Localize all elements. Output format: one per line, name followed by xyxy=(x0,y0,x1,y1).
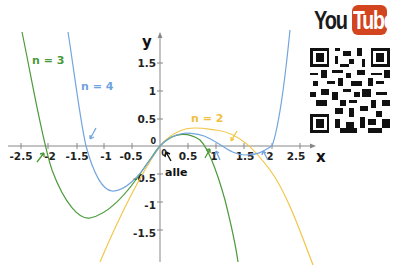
svg-text:0: 0 xyxy=(150,137,156,146)
svg-text:-1.5: -1.5 xyxy=(133,227,156,239)
svg-text:-2.5: -2.5 xyxy=(10,150,33,162)
youtube-you-text: You xyxy=(314,6,347,35)
svg-text:-1: -1 xyxy=(100,150,112,162)
chart-plot: -2.5 -2 -1.5 -1 -0.5 0 0.5 1 1.5 2 2.5 x… xyxy=(0,0,400,274)
svg-text:1: 1 xyxy=(149,85,156,97)
x-tick-labels: -2.5 -2 -1.5 -1 -0.5 0 0.5 1 1.5 2 2.5 xyxy=(10,149,306,162)
svg-text:1.5: 1.5 xyxy=(137,57,156,69)
y-axis-label: y xyxy=(142,33,152,51)
youtube-logo[interactable]: You Tube xyxy=(312,4,388,36)
svg-text:0.5: 0.5 xyxy=(179,150,198,162)
svg-text:1.5: 1.5 xyxy=(236,150,255,162)
svg-text:-1.5: -1.5 xyxy=(66,150,89,162)
svg-text:-1: -1 xyxy=(144,199,156,211)
label-n4: n = 4 xyxy=(81,80,114,93)
svg-text:0.5: 0.5 xyxy=(137,113,156,125)
svg-text:2.5: 2.5 xyxy=(287,150,306,162)
label-alle: alle xyxy=(165,166,187,179)
svg-text:-2: -2 xyxy=(44,150,56,162)
label-n2: n = 2 xyxy=(191,112,223,125)
youtube-tube-text: Tube xyxy=(353,6,393,35)
y-axis-arrow-icon xyxy=(158,32,163,38)
y-tick-labels: 1.5 1 0.5 0 -0.5 -1 -1.5 xyxy=(133,57,156,239)
svg-text:-0.5: -0.5 xyxy=(120,150,143,162)
label-n3: n = 3 xyxy=(32,54,64,67)
qr-code-icon[interactable] xyxy=(310,48,390,133)
x-axis-label: x xyxy=(316,148,326,166)
